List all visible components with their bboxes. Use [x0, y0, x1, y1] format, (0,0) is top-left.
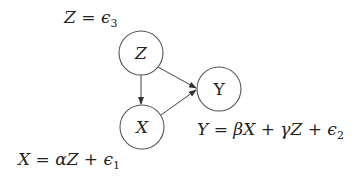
edge-x-to-y: [161, 90, 196, 115]
node-x: X: [120, 105, 164, 149]
edge-z-to-y: [158, 67, 196, 88]
node-y-label: Y: [212, 79, 225, 99]
equation-z: Z = ϵ3: [63, 7, 117, 30]
node-y: Y: [197, 67, 241, 111]
equation-x: X = αZ + ϵ1: [16, 149, 120, 172]
node-z-label: Z: [134, 43, 148, 63]
node-x-label: X: [134, 117, 149, 137]
node-z: Z: [119, 31, 163, 75]
equation-y: Y = βX + γZ + ϵ2: [197, 119, 344, 142]
causal-diagram: Z X Y Z = ϵ3 X = αZ + ϵ1 Y = βX + γZ + ϵ…: [0, 0, 361, 177]
